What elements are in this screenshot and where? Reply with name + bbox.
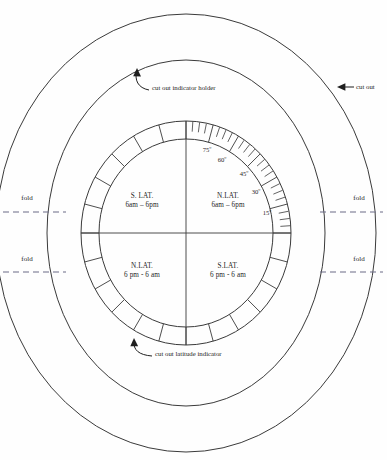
ring-minor-tick [222, 130, 226, 139]
ring-segment-divider [112, 154, 125, 167]
ring-minor-tick [204, 124, 206, 134]
ring-segment-divider [261, 280, 277, 289]
ring-minor-tick [192, 122, 193, 132]
ring-minor-tick [216, 127, 219, 137]
ring-minor-tick [271, 184, 280, 188]
ring-major-tick [209, 125, 214, 142]
fold-labels: foldfoldfoldfold [21, 194, 365, 263]
ring-minor-tick [257, 159, 265, 166]
ring-minor-tick [276, 197, 286, 200]
ring-minor-tick [280, 226, 290, 227]
ring-segment-divider [85, 257, 102, 262]
fold-lines [3, 212, 383, 272]
ring-segment-divider [270, 257, 287, 262]
annotation-labels: cut out indicator holdercut outcut out l… [152, 83, 375, 357]
ring-minor-tick [239, 140, 245, 148]
annotation-cut-out: cut out [356, 83, 375, 90]
fold-right-upper: fold [353, 194, 365, 202]
ring-minor-tick [248, 149, 255, 157]
degree-label-30deg: 30º [252, 188, 261, 195]
ring-segment-divider [159, 324, 164, 341]
ring-segment-divider [209, 324, 214, 341]
ring-segment-divider [112, 299, 125, 312]
ring-segment-divider [230, 314, 239, 330]
degree-label-75deg: 75º [203, 146, 212, 153]
quadrant-label-lower-left: N.LAT.6 pm - 6 am [124, 262, 160, 279]
latitude-indicator-diagram: S. LAT.6am – 6pmN.LAT.6am – 6pmN.LAT.6 p… [0, 0, 387, 460]
latitude-indicator-leader [134, 341, 152, 356]
ring-segment-divider [95, 280, 111, 289]
degree-label-60deg: 60º [218, 156, 227, 163]
ring-segment-divider [95, 177, 111, 186]
ring-minor-tick [261, 165, 269, 171]
degree-label-45deg: 45º [240, 170, 249, 177]
ring-segment-divider [248, 299, 261, 312]
ring-segment-divider [134, 136, 143, 152]
quadrant-label-lower-right: S.LAT.6 pm - 6 am [210, 262, 246, 279]
ring-major-tick [230, 136, 239, 152]
ring-minor-tick [273, 190, 282, 194]
fold-left-upper: fold [21, 194, 33, 202]
ring-minor-tick [280, 218, 290, 219]
fold-left-lower: fold [21, 255, 33, 263]
ring-segment-divider [159, 125, 164, 142]
quadrant-labels: S. LAT.6am – 6pmN.LAT.6am – 6pmN.LAT.6 p… [124, 192, 246, 279]
fold-right-lower: fold [353, 255, 365, 263]
annotation-cut-out-latitude-indicator: cut out latitude indicator [155, 350, 222, 357]
ring-major-tick [270, 204, 287, 209]
latitude-indicator-arrow-icon [130, 338, 138, 346]
cut-out-arrow-icon [337, 83, 345, 90]
degree-label-15deg: 15º [263, 209, 272, 216]
diagram-canvas: S. LAT.6am – 6pmN.LAT.6am – 6pmN.LAT.6 p… [0, 0, 387, 460]
quadrant-label-upper-right: N.LAT.6am – 6pm [211, 192, 245, 209]
quadrant-label-upper-left: S. LAT.6am – 6pm [125, 192, 159, 209]
ring-minor-ticks [186, 121, 291, 233]
ring-segment-divider [134, 314, 143, 330]
ring-minor-tick [279, 211, 289, 213]
ring-minor-tick [198, 122, 199, 132]
ring-minor-tick [228, 133, 232, 142]
annotation-cut-out-indicator-holder: cut out indicator holder [152, 84, 216, 91]
ring-minor-tick [244, 144, 250, 152]
ring-minor-tick [265, 171, 273, 177]
ring-segment-divider [85, 204, 102, 209]
ring-major-tick [261, 177, 277, 186]
